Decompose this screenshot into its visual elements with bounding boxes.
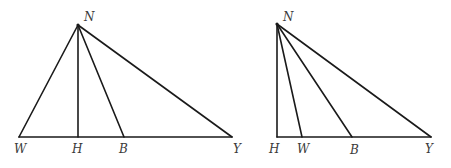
vertex-N xyxy=(76,23,79,26)
label-H: H xyxy=(268,142,280,156)
figure-left: N W H B Y xyxy=(14,10,242,156)
label-H: H xyxy=(71,142,83,156)
label-B: B xyxy=(118,142,128,156)
label-Y: Y xyxy=(233,142,242,156)
segment-NW xyxy=(277,24,302,137)
segment-NB xyxy=(277,24,352,137)
label-N: N xyxy=(83,10,95,24)
label-B: B xyxy=(349,143,359,157)
label-N: N xyxy=(282,10,294,24)
figure-right: N H W B Y xyxy=(268,10,434,157)
diagram-canvas: N W H B Y N H W B Y xyxy=(0,0,451,168)
label-W: W xyxy=(14,142,28,156)
label-Y: Y xyxy=(425,142,434,156)
label-W: W xyxy=(297,142,311,156)
segment-NY xyxy=(277,24,431,137)
segment-NW xyxy=(19,25,78,137)
vertex-N xyxy=(275,22,278,25)
